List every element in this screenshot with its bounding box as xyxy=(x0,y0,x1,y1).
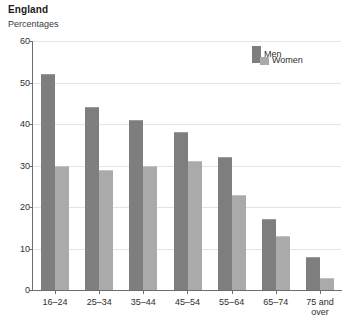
y-axis: 0102030405060 xyxy=(0,41,33,291)
x-axis-tick-label: 16–24 xyxy=(33,297,77,307)
chart-legend: Men Women xyxy=(252,46,342,72)
bar-group xyxy=(218,41,246,290)
x-axis-tick-label: 45–54 xyxy=(165,297,209,307)
bar-women xyxy=(232,195,246,290)
bar-men xyxy=(129,120,143,290)
bar-men xyxy=(218,157,232,290)
bar-men xyxy=(262,219,276,290)
x-axis-tick: 45–54 xyxy=(165,291,209,307)
x-axis-tick-mark xyxy=(232,291,233,294)
y-axis-tick: 50 xyxy=(20,77,33,89)
x-axis-tick: 25–34 xyxy=(77,291,121,307)
x-axis-tick-label: 55–64 xyxy=(210,297,254,307)
chart-subtitle: Percentages xyxy=(8,18,59,31)
x-axis-tick-label: 25–34 xyxy=(77,297,121,307)
y-axis-tick: 20 xyxy=(20,201,33,213)
legend-label-women: Women xyxy=(272,56,303,65)
y-axis-tick: 40 xyxy=(20,118,33,130)
bar-women xyxy=(55,166,69,291)
bar-group xyxy=(262,41,290,290)
bar-women xyxy=(276,236,290,290)
page-title: England xyxy=(8,3,59,16)
bar-men xyxy=(174,132,188,290)
y-axis-tick: 10 xyxy=(20,243,33,255)
legend-item-women: Women xyxy=(260,56,303,65)
bar-group xyxy=(85,41,113,290)
x-axis-tick: 55–64 xyxy=(210,291,254,307)
x-axis-tick: 75 and over xyxy=(298,291,342,317)
chart-header: England Percentages xyxy=(8,3,59,31)
legend-swatch-women-icon xyxy=(260,57,269,65)
x-axis-tick-mark xyxy=(187,291,188,294)
bar-women xyxy=(99,170,113,290)
bar-men xyxy=(306,257,320,290)
x-axis: 16–2425–3435–4445–5455–6465–7475 and ove… xyxy=(33,291,342,323)
x-axis-tick: 16–24 xyxy=(33,291,77,307)
x-axis-tick-label: 35–44 xyxy=(121,297,165,307)
bar-women xyxy=(188,161,202,290)
bar-women xyxy=(143,166,157,291)
bar-group xyxy=(174,41,202,290)
x-axis-tick-mark xyxy=(99,291,100,294)
bar-men xyxy=(85,107,99,290)
bar-group xyxy=(306,41,334,290)
x-axis-tick-mark xyxy=(143,291,144,294)
bar-group xyxy=(129,41,157,290)
x-axis-tick: 65–74 xyxy=(254,291,298,307)
bar-women xyxy=(320,278,334,290)
bar-group xyxy=(41,41,69,290)
x-axis-tick-mark xyxy=(276,291,277,294)
y-axis-tick: 30 xyxy=(20,160,33,172)
x-axis-tick-mark xyxy=(320,291,321,294)
x-axis-tick-label: 75 and over xyxy=(298,297,342,317)
bar-men xyxy=(41,74,55,290)
bars-layer xyxy=(33,41,342,290)
y-axis-tick: 60 xyxy=(20,35,33,47)
x-axis-tick: 35–44 xyxy=(121,291,165,307)
y-axis-tick: 0 xyxy=(25,284,33,296)
x-axis-tick-label: 65–74 xyxy=(254,297,298,307)
x-axis-tick-mark xyxy=(55,291,56,294)
